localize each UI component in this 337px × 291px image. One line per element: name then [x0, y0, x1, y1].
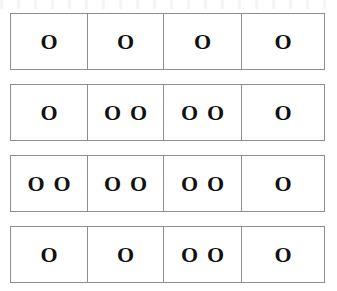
- grid-row: OOOOO: [10, 226, 325, 283]
- grid-cell[interactable]: O: [11, 227, 88, 282]
- token-group: OO: [181, 244, 224, 266]
- grid-cell[interactable]: O: [242, 227, 324, 282]
- letter-o-token: O: [117, 31, 134, 53]
- grid-row: OOOO: [10, 13, 325, 70]
- token-group: OO: [104, 173, 147, 195]
- token-group: O: [274, 102, 291, 124]
- grid-cell[interactable]: OO: [164, 156, 242, 211]
- token-group: O: [194, 31, 211, 53]
- letter-o-token: O: [117, 244, 134, 266]
- token-group: OO: [181, 102, 224, 124]
- letter-o-token: O: [27, 173, 44, 195]
- grid-cell[interactable]: OO: [11, 156, 88, 211]
- worksheet-grid: OOOOOOOOOOOOOOOOOOOOOO: [10, 13, 325, 283]
- grid-cell[interactable]: O: [11, 85, 88, 140]
- grid-cell[interactable]: O: [164, 14, 242, 69]
- letter-o-token: O: [130, 102, 147, 124]
- token-group: OO: [181, 173, 224, 195]
- scan-artifact-band: [0, 0, 337, 9]
- grid-cell[interactable]: OO: [164, 227, 242, 282]
- letter-o-token: O: [181, 244, 198, 266]
- letter-o-token: O: [207, 244, 224, 266]
- token-group: OO: [27, 173, 70, 195]
- letter-o-token: O: [40, 31, 57, 53]
- grid-cell[interactable]: OO: [88, 85, 164, 140]
- token-group: O: [40, 102, 57, 124]
- grid-cell[interactable]: OO: [88, 156, 164, 211]
- letter-o-token: O: [104, 173, 121, 195]
- grid-row: OOOOOOO: [10, 155, 325, 212]
- letter-o-token: O: [274, 31, 291, 53]
- letter-o-token: O: [40, 244, 57, 266]
- grid-cell[interactable]: O: [242, 156, 324, 211]
- letter-o-token: O: [194, 31, 211, 53]
- grid-cell[interactable]: O: [242, 14, 324, 69]
- grid-row: OOOOOO: [10, 84, 325, 141]
- token-group: O: [40, 31, 57, 53]
- letter-o-token: O: [207, 102, 224, 124]
- grid-cell[interactable]: OO: [164, 85, 242, 140]
- token-group: O: [274, 173, 291, 195]
- token-group: O: [117, 244, 134, 266]
- grid-cell[interactable]: O: [88, 227, 164, 282]
- grid-cell[interactable]: O: [88, 14, 164, 69]
- letter-o-token: O: [207, 173, 224, 195]
- grid-cell[interactable]: O: [242, 85, 324, 140]
- token-group: O: [40, 244, 57, 266]
- grid-cell[interactable]: O: [11, 14, 88, 69]
- letter-o-token: O: [181, 102, 198, 124]
- token-group: O: [274, 244, 291, 266]
- token-group: O: [274, 31, 291, 53]
- letter-o-token: O: [274, 102, 291, 124]
- token-group: OO: [104, 102, 147, 124]
- letter-o-token: O: [104, 102, 121, 124]
- letter-o-token: O: [130, 173, 147, 195]
- letter-o-token: O: [181, 173, 198, 195]
- letter-o-token: O: [54, 173, 71, 195]
- letter-o-token: O: [274, 244, 291, 266]
- letter-o-token: O: [274, 173, 291, 195]
- token-group: O: [117, 31, 134, 53]
- letter-o-token: O: [40, 102, 57, 124]
